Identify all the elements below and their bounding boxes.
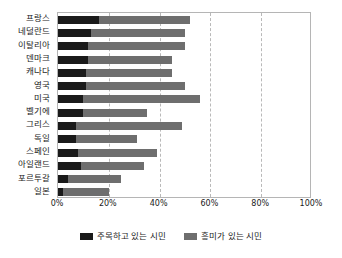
- bar-segment-attentive: [58, 122, 76, 130]
- bar-segment-attentive: [58, 56, 88, 64]
- legend-swatch-icon: [80, 233, 93, 240]
- bar-segment-interested: [81, 162, 145, 170]
- category-label: 영국: [0, 81, 53, 90]
- category-label: 프랑스: [0, 14, 53, 23]
- bar-segment-attentive: [58, 135, 76, 143]
- bar-segment-attentive: [58, 162, 81, 170]
- bars-layer: [58, 13, 310, 197]
- legend-label: 흥미가 있는 시민: [201, 231, 262, 241]
- category-label: 일본: [0, 187, 53, 196]
- bar-segment-attentive: [58, 42, 88, 50]
- value-tick-label: 100%: [300, 199, 323, 209]
- bar-segment-attentive: [58, 149, 78, 157]
- bar-row: [58, 82, 312, 90]
- value-tick-label: 20%: [99, 199, 117, 209]
- bar-row: [58, 175, 312, 183]
- bar-segment-attentive: [58, 82, 86, 90]
- category-label: 그리스: [0, 120, 53, 129]
- bar-row: [58, 149, 312, 157]
- category-label: 이탈리아: [0, 41, 53, 50]
- bar-segment-interested: [91, 29, 185, 37]
- bar-segment-interested: [76, 122, 183, 130]
- bar-segment-interested: [86, 82, 185, 90]
- bar-segment-interested: [88, 42, 185, 50]
- bar-row: [58, 122, 312, 130]
- value-axis-ticks: 0%20%40%60%80%100%: [57, 199, 311, 213]
- bar-segment-interested: [63, 188, 109, 196]
- category-label: 미국: [0, 94, 53, 103]
- bar-segment-interested: [76, 135, 137, 143]
- bar-segment-attentive: [58, 109, 83, 117]
- chart-legend: 주목하고 있는 시민흥미가 있는 시민: [0, 231, 342, 241]
- legend-label: 주목하고 있는 시민: [97, 231, 166, 241]
- value-tick-label: 60%: [201, 199, 219, 209]
- category-label: 캐나다: [0, 67, 53, 76]
- category-axis-labels: 프랑스네덜란드이탈리아덴마크캐나다영국미국벨기에그리스독일스페인아일랜드포르투갈…: [0, 12, 53, 198]
- bar-segment-interested: [86, 69, 172, 77]
- category-label: 독일: [0, 134, 53, 143]
- bar-segment-interested: [83, 95, 200, 103]
- bar-segment-interested: [99, 16, 190, 24]
- legend-item[interactable]: 주목하고 있는 시민: [80, 231, 166, 241]
- category-label: 스페인: [0, 147, 53, 156]
- bar-segment-interested: [88, 56, 172, 64]
- bar-segment-attentive: [58, 175, 68, 183]
- plot-wrapper: 프랑스네덜란드이탈리아덴마크캐나다영국미국벨기에그리스독일스페인아일랜드포르투갈…: [0, 12, 342, 198]
- bar-row: [58, 162, 312, 170]
- bar-row: [58, 29, 312, 37]
- bar-segment-interested: [78, 149, 157, 157]
- bar-segment-attentive: [58, 16, 99, 24]
- stacked-bar-chart: 프랑스네덜란드이탈리아덴마크캐나다영국미국벨기에그리스독일스페인아일랜드포르투갈…: [0, 0, 342, 258]
- plot-area: [57, 12, 311, 198]
- category-label: 벨기에: [0, 107, 53, 116]
- bar-row: [58, 188, 312, 196]
- legend-item[interactable]: 흥미가 있는 시민: [184, 231, 262, 241]
- category-label: 아일랜드: [0, 160, 53, 169]
- bar-row: [58, 42, 312, 50]
- value-tick-label: 0%: [51, 199, 64, 209]
- value-tick-label: 80%: [251, 199, 269, 209]
- bar-row: [58, 135, 312, 143]
- bar-row: [58, 16, 312, 24]
- bar-segment-attentive: [58, 69, 86, 77]
- bar-row: [58, 56, 312, 64]
- category-label: 네덜란드: [0, 27, 53, 36]
- bar-row: [58, 109, 312, 117]
- bar-segment-attentive: [58, 95, 83, 103]
- legend-swatch-icon: [184, 233, 197, 240]
- bar-segment-interested: [83, 109, 147, 117]
- bar-segment-attentive: [58, 29, 91, 37]
- bar-row: [58, 69, 312, 77]
- category-label: 포르투갈: [0, 174, 53, 183]
- bar-row: [58, 95, 312, 103]
- bar-segment-interested: [68, 175, 121, 183]
- value-tick-label: 40%: [150, 199, 168, 209]
- category-label: 덴마크: [0, 54, 53, 63]
